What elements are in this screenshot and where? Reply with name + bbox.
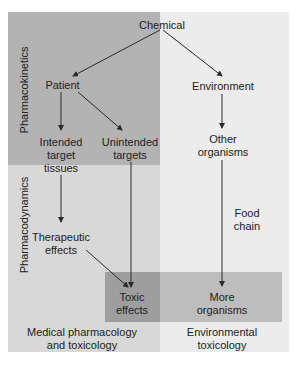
food-line2: chain: [230, 220, 264, 233]
unintended-line2: targets: [98, 149, 162, 162]
medical-line1: Medical pharmacology: [20, 326, 144, 339]
label-food-chain: Food chain: [230, 207, 264, 233]
node-toxic-effects: Toxic effects: [110, 291, 154, 317]
other-line1: Other: [195, 133, 251, 146]
node-patient: Patient: [40, 79, 85, 92]
toxic-line1: Toxic: [110, 291, 154, 304]
side-label-pharmacodynamics: Pharmacodynamics: [18, 173, 30, 277]
toxic-line2: effects: [110, 304, 154, 317]
side-label-pharmacokinetics: Pharmacokinetics: [18, 42, 30, 138]
node-therapeutic-effects: Therapeutic effects: [30, 231, 92, 257]
other-line2: organisms: [195, 146, 251, 159]
node-more-organisms: More organisms: [193, 291, 251, 317]
more-line1: More: [193, 291, 251, 304]
node-intended-targets: Intended target tissues: [33, 136, 89, 175]
food-line1: Food: [230, 207, 264, 220]
intended-line1: Intended: [33, 136, 89, 149]
environmental-line1: Environmental: [182, 326, 262, 339]
node-chemical: Chemical: [132, 19, 192, 32]
therapeutic-line2: effects: [30, 244, 92, 257]
intended-line2: target: [33, 149, 89, 162]
footer-environmental: Environmental toxicology: [182, 326, 262, 352]
intended-line3: tissues: [33, 162, 89, 175]
node-unintended-targets: Unintended targets: [98, 136, 162, 162]
unintended-line1: Unintended: [98, 136, 162, 149]
therapeutic-line1: Therapeutic: [30, 231, 92, 244]
node-other-organisms: Other organisms: [195, 133, 251, 159]
more-line2: organisms: [193, 304, 251, 317]
medical-line2: and toxicology: [20, 339, 144, 352]
node-environment: Environment: [187, 80, 259, 93]
environmental-line2: toxicology: [182, 339, 262, 352]
footer-medical: Medical pharmacology and toxicology: [20, 326, 144, 352]
